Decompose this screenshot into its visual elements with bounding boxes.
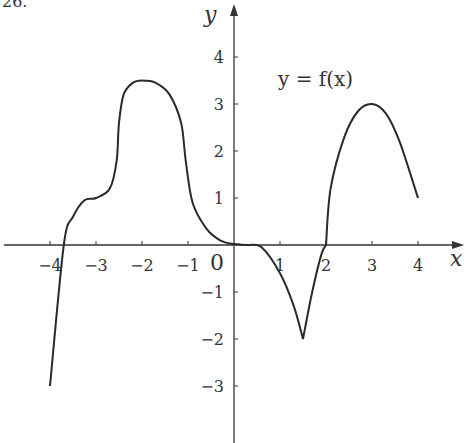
y-tick-label: 2 xyxy=(214,142,224,161)
x-tick-label: 4 xyxy=(413,256,423,275)
x-tick-label: 3 xyxy=(367,256,377,275)
function-graph: −4−3−2−112344321−1−2−3 x y 0 y = f(x) xyxy=(0,0,464,443)
x-tick-label: −4 xyxy=(38,256,62,275)
axes xyxy=(4,4,464,443)
tick-labels: −4−3−2−112344321−1−2−3 xyxy=(38,48,423,396)
y-axis-arrow-icon xyxy=(230,4,238,16)
origin-label: 0 xyxy=(210,250,224,275)
x-tick-label: −3 xyxy=(84,256,108,275)
x-tick-label: −2 xyxy=(130,256,154,275)
x-tick-label: −1 xyxy=(176,256,200,275)
y-tick-label: −3 xyxy=(200,377,224,396)
x-tick-label: 2 xyxy=(321,256,331,275)
y-tick-label: 4 xyxy=(214,48,224,67)
y-tick-label: −1 xyxy=(200,283,224,302)
y-tick-label: 3 xyxy=(214,95,224,114)
curve-label: y = f(x) xyxy=(277,67,353,91)
y-tick-label: −2 xyxy=(200,330,224,349)
y-tick-label: 1 xyxy=(214,189,224,208)
y-axis-label: y xyxy=(203,2,217,27)
x-axis-label: x xyxy=(450,246,463,271)
